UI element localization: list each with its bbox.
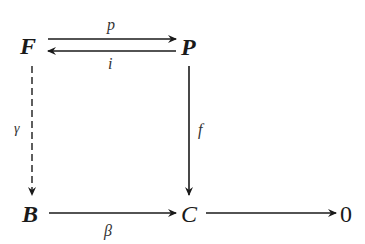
label-p: p xyxy=(107,17,115,33)
node-c: C xyxy=(181,202,197,226)
node-zero: 0 xyxy=(340,202,352,226)
node-b: B xyxy=(22,202,38,226)
label-gamma: γ xyxy=(14,122,20,136)
commutative-diagram: F P B C 0 p i γ f β xyxy=(0,0,365,244)
node-p: P xyxy=(181,35,196,59)
label-beta: β xyxy=(104,223,112,239)
label-f: f xyxy=(198,122,202,138)
label-i: i xyxy=(108,56,112,72)
node-f: F xyxy=(20,34,36,58)
